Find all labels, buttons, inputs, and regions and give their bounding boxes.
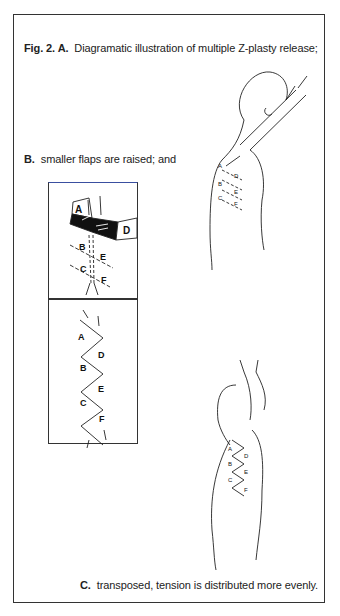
svg-text:F: F — [234, 201, 238, 207]
figure-arms-raised-lower: A D B E C F — [212, 360, 266, 570]
svg-text:D: D — [123, 225, 130, 236]
svg-text:D: D — [244, 453, 249, 459]
svg-text:C: C — [218, 195, 223, 201]
illustration-drawings: A D B E C F A D B E C F A D B E C F — [0, 0, 340, 616]
figure-arm-raised-upper: A D B E C F — [210, 72, 307, 270]
svg-text:A: A — [78, 332, 85, 342]
svg-text:B: B — [218, 181, 222, 187]
svg-text:C: C — [80, 264, 87, 274]
svg-text:F: F — [244, 487, 248, 493]
svg-text:B: B — [80, 363, 87, 373]
svg-text:A: A — [228, 446, 232, 452]
svg-text:A: A — [218, 163, 222, 169]
transposed-flaps-diagram: A D B E C F — [78, 310, 106, 448]
svg-text:F: F — [101, 275, 107, 285]
svg-text:B: B — [79, 242, 86, 252]
svg-text:E: E — [100, 252, 106, 262]
svg-text:E: E — [244, 469, 248, 475]
svg-text:F: F — [99, 414, 105, 424]
svg-text:D: D — [98, 350, 105, 360]
svg-text:C: C — [80, 398, 87, 408]
label-a: A — [75, 204, 82, 215]
svg-text:E: E — [234, 189, 238, 195]
svg-text:C: C — [228, 477, 233, 483]
svg-text:E: E — [98, 384, 104, 394]
raised-flaps-diagram: A D B E C F — [70, 196, 137, 295]
svg-text:B: B — [228, 461, 232, 467]
svg-text:D: D — [234, 173, 239, 179]
